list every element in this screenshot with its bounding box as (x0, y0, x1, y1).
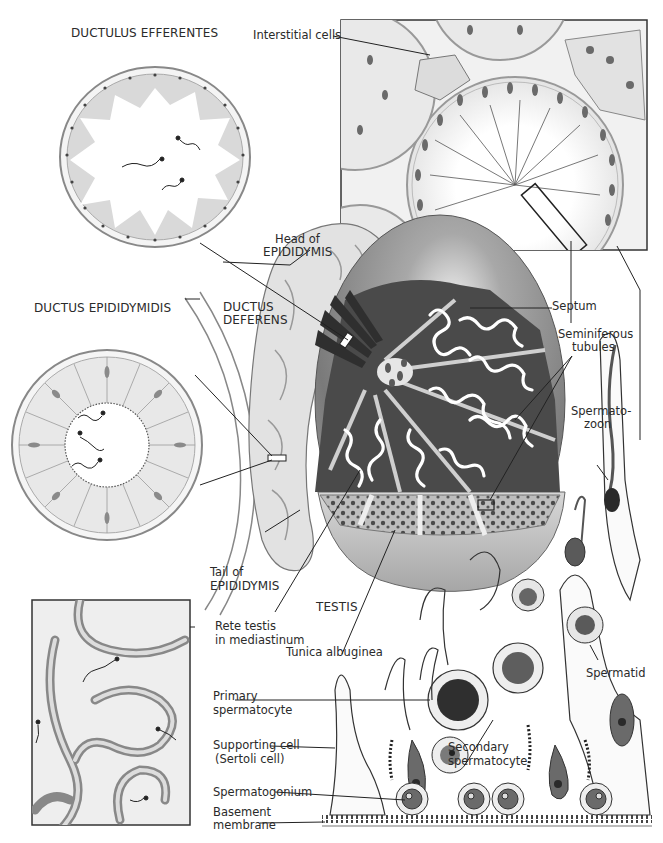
label-primary-spermatocyte-2: spermatocyte (213, 704, 292, 717)
ductus-epididymidis-section (12, 350, 202, 540)
illustration (0, 0, 663, 843)
label-supporting-cell-2: (Sertoli cell) (215, 753, 284, 766)
label-head-of-epididymis-2: EPIDIDYMIS (263, 246, 333, 259)
rete-testis-inset (32, 600, 190, 830)
label-basement-membrane-2: membrane (213, 819, 276, 832)
ductulus-efferentes-section (60, 67, 250, 247)
label-rete-testis-1: Rete testis (215, 620, 276, 633)
label-tail-of-epididymis-1: Tail of (210, 566, 243, 579)
label-ductulus-efferentes: DUCTULUS EFFERENTES (71, 27, 218, 40)
label-seminiferous-tubules-2: tubules (572, 341, 615, 354)
label-interstitial-cells: Interstitial cells (253, 29, 341, 42)
label-ductus-deferens-2: DEFERENS (223, 314, 288, 327)
label-tunica-albuginea: Tunica albuginea (286, 646, 383, 659)
label-septum: Septum (552, 300, 597, 313)
label-spermatogonium: Spermatogonium (213, 786, 312, 799)
testis (315, 215, 565, 591)
label-secondary-spermatocyte-2: spermatocyte (448, 755, 527, 768)
label-spermatid: Spermatid (586, 667, 645, 680)
label-ductus-epididymidis: DUCTUS EPIDIDYMIDIS (34, 302, 171, 315)
label-testis: TESTIS (316, 601, 358, 614)
label-spermatozoon-2: zoon (584, 418, 611, 431)
label-tail-of-epididymis-2: EPIDIDYMIS (210, 580, 280, 593)
label-supporting-cell-1: Supporting cell (213, 739, 300, 752)
testis-anatomy-diagram: DUCTULUS EFFERENTES Interstitial cells H… (0, 0, 663, 843)
label-primary-spermatocyte-1: Primary (213, 690, 257, 703)
label-secondary-spermatocyte-1: Secondary (448, 741, 509, 754)
